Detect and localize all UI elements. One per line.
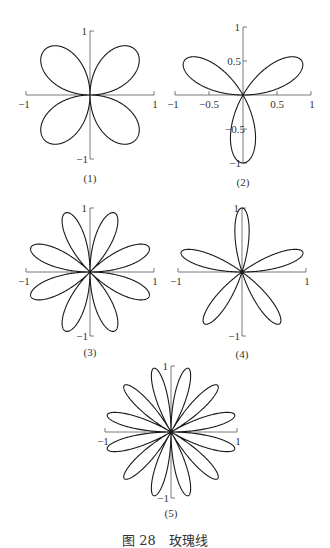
y-tick-label: 0.5 — [227, 55, 241, 67]
y-tick-label: −1 — [228, 330, 240, 342]
x-tick-label: 1 — [152, 275, 158, 287]
y-tick-label: 1 — [82, 202, 88, 214]
subfigure-label: (5) — [165, 507, 178, 520]
x-tick-label: −1 — [97, 435, 109, 447]
x-tick-label: 1 — [304, 275, 310, 287]
figure-caption: 图 28 玫瑰线 — [0, 530, 330, 548]
x-tick-label: 0.5 — [270, 98, 284, 110]
x-tick-label: −1 — [18, 275, 30, 287]
y-tick-label: 1 — [82, 25, 88, 37]
y-tick-label: −1 — [76, 153, 88, 165]
x-tick-label: −1 — [18, 98, 30, 110]
x-tick-label: 1 — [152, 98, 158, 110]
subfigure-label: (4) — [236, 348, 249, 361]
plot-4: −111−1(4) — [170, 202, 310, 361]
plot-5: −111−1(5) — [97, 360, 241, 520]
y-tick-label: −1 — [229, 157, 241, 169]
plot-2: −111−1−0.50.50.5−0.5(2) — [167, 21, 315, 189]
y-tick-label: −1 — [76, 330, 88, 342]
x-tick-label: 1 — [309, 98, 315, 110]
rose-curves-figure: −111−1(1) −111−1−0.50.50.5−0.5(2) −111−1… — [0, 0, 330, 548]
plot-3: −111−1(3) — [18, 202, 158, 359]
x-tick-label: 1 — [235, 435, 241, 447]
x-tick-label: −1 — [170, 275, 182, 287]
x-tick-label: −1 — [167, 98, 179, 110]
plot-1: −111−1(1) — [18, 25, 158, 185]
x-tick-label: −0.5 — [199, 98, 219, 110]
subfigure-label: (1) — [84, 172, 97, 185]
y-tick-label: −1 — [157, 492, 169, 504]
y-tick-label: −0.5 — [225, 123, 245, 135]
subfigure-label: (2) — [237, 176, 250, 189]
y-tick-label: 1 — [235, 21, 241, 33]
y-tick-label: 1 — [163, 360, 169, 372]
subfigure-label: (3) — [84, 346, 97, 359]
